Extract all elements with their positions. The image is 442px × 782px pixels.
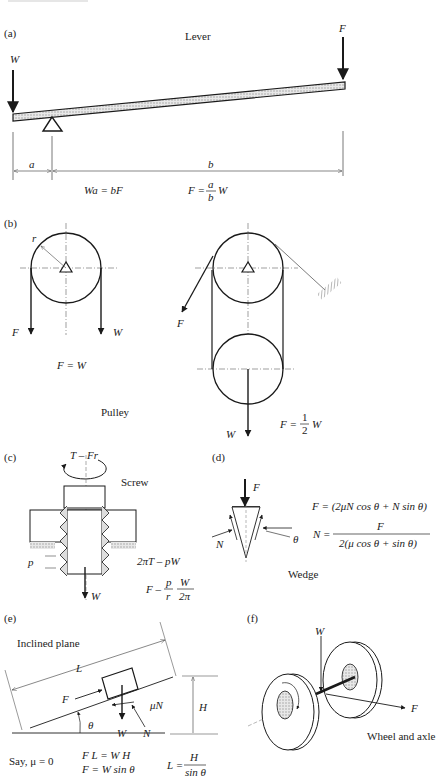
svg-text:H: H bbox=[189, 751, 199, 763]
panel-wheel-and-axle: (f) W F Wheel and axle bbox=[247, 612, 436, 750]
compound-F-label: F bbox=[176, 317, 184, 329]
front-hub bbox=[277, 691, 293, 719]
lever-force-F-label: F bbox=[338, 22, 346, 34]
pitch-label: p bbox=[27, 556, 34, 568]
friction-label: μN bbox=[149, 699, 164, 711]
panel-screw: (c) T – Fr Screw p W 2πT – pW F – p r W … bbox=[4, 449, 194, 602]
lever-equation-F: F = a b W bbox=[187, 178, 228, 203]
single-W-label: W bbox=[113, 326, 123, 338]
pulley-title: Pulley bbox=[101, 406, 130, 418]
panel-label-e: (e) bbox=[4, 612, 17, 625]
incline-N-label: N bbox=[142, 727, 151, 739]
block bbox=[102, 668, 138, 699]
radius-arrow bbox=[41, 246, 66, 268]
height-label: H bbox=[198, 701, 208, 713]
panel-lever: (a) Lever W F a b Wa = bF F = a b W bbox=[4, 22, 346, 203]
pull-arrow-icon bbox=[182, 256, 213, 312]
panel-label-f: (f) bbox=[247, 612, 258, 625]
dim-a-label: a bbox=[29, 158, 35, 170]
svg-text:sin θ: sin θ bbox=[185, 766, 207, 778]
ceiling-anchor-hatch bbox=[317, 277, 341, 299]
svg-text:2(μ cos θ + sin θ): 2(μ cos θ + sin θ) bbox=[339, 537, 417, 550]
single-F-label: F bbox=[11, 326, 19, 338]
panel-inclined-plane: (e) Inclined plane L F μN θ W N H Say, μ… bbox=[4, 612, 218, 778]
screw-load-label: W bbox=[91, 590, 101, 602]
wedge-angle-label: θ bbox=[293, 533, 299, 545]
length-label: L bbox=[75, 662, 82, 674]
wheel-W-label: W bbox=[315, 625, 325, 637]
normal-force-arrow bbox=[212, 530, 232, 537]
wedge-equation-F: F = (2μN cos θ + N sin θ) bbox=[311, 500, 427, 513]
angle-arc bbox=[78, 712, 80, 733]
fulcrum-triangle-icon bbox=[43, 117, 62, 131]
screw-shaft bbox=[67, 510, 102, 574]
wedge-force-label: F bbox=[252, 481, 260, 493]
svg-text:W: W bbox=[218, 184, 228, 196]
svg-text:W: W bbox=[312, 418, 322, 430]
svg-text:N =: N = bbox=[312, 528, 331, 540]
simple-machines-diagram: (a) Lever W F a b Wa = bF F = a b W (b) bbox=[0, 0, 442, 782]
single-pulley-equation: F = W bbox=[56, 359, 87, 371]
svg-text:F –: F – bbox=[145, 583, 161, 595]
lever-beam bbox=[13, 82, 345, 121]
axle-triangle-icon bbox=[242, 262, 254, 272]
panel-label-d: (d) bbox=[212, 451, 225, 464]
screw-title: Screw bbox=[121, 476, 149, 488]
wedge-normal-label: N bbox=[215, 538, 224, 550]
axle-triangle-icon bbox=[60, 262, 72, 272]
incline-F-label: F bbox=[61, 693, 69, 705]
back-hub bbox=[342, 664, 358, 690]
lever-title: Lever bbox=[185, 30, 211, 42]
svg-text:L =: L = bbox=[166, 759, 183, 771]
rotation-arrow-icon bbox=[64, 460, 106, 479]
incline-equation-F: F = W sin θ bbox=[81, 763, 135, 775]
wheel-and-axle-title: Wheel and axle bbox=[367, 730, 436, 742]
svg-text:p: p bbox=[165, 576, 172, 588]
inclined-plane-title: Inclined plane bbox=[17, 637, 80, 649]
svg-text:2π: 2π bbox=[179, 590, 191, 602]
push-force-arrow bbox=[75, 690, 102, 699]
screw-equation-work: 2πT – pW bbox=[137, 555, 180, 567]
wheel-F-label: F bbox=[410, 702, 418, 714]
svg-text:b: b bbox=[208, 191, 214, 203]
dim-b-label: b bbox=[208, 158, 214, 170]
ground-hatch bbox=[111, 542, 136, 549]
normal-arrow bbox=[132, 705, 145, 727]
ground-hatch bbox=[30, 542, 55, 549]
svg-text:a: a bbox=[208, 178, 214, 190]
svg-text:W: W bbox=[180, 576, 190, 588]
svg-text:r: r bbox=[166, 590, 171, 602]
svg-text:1: 1 bbox=[302, 411, 308, 423]
compound-pulley: F W F = 1 2 W bbox=[176, 223, 342, 440]
incline-W-label: W bbox=[117, 727, 127, 739]
incline-equation-work: F L = W H bbox=[81, 749, 131, 761]
panel-wedge: (d) F N θ F = (2μN cos θ + N sin θ) N = … bbox=[212, 451, 430, 580]
single-pulley: r F W F = W bbox=[11, 223, 123, 371]
lever-equation-moment: Wa = bF bbox=[84, 184, 123, 196]
wedge-equation-N: N = F 2(μ cos θ + sin θ) bbox=[312, 520, 430, 550]
svg-text:F =: F = bbox=[187, 184, 205, 196]
wedge-title: Wedge bbox=[288, 568, 318, 580]
compound-W-label: W bbox=[226, 428, 236, 440]
torque-label: T – Fr bbox=[70, 449, 99, 461]
incline-equation-L: L = H sin θ bbox=[166, 751, 207, 778]
incline-assumption: Say, μ = 0 bbox=[9, 755, 54, 767]
panel-label-c: (c) bbox=[4, 451, 17, 464]
panel-label-a: (a) bbox=[4, 27, 17, 40]
svg-text:F =: F = bbox=[279, 418, 297, 430]
friction-arrow bbox=[112, 702, 134, 705]
panel-label-b: (b) bbox=[4, 217, 17, 230]
lever-force-W-label: W bbox=[10, 53, 20, 65]
screw-equation-F: F – p r W 2π bbox=[145, 576, 194, 602]
radius-label: r bbox=[32, 232, 37, 244]
compound-pulley-equation: F = 1 2 W bbox=[279, 411, 322, 436]
panel-pulley: (b) r F W F = W Pulley F bbox=[4, 217, 342, 440]
svg-text:F: F bbox=[376, 520, 384, 532]
svg-text:2: 2 bbox=[302, 424, 308, 436]
incline-angle-label: θ bbox=[88, 719, 94, 731]
